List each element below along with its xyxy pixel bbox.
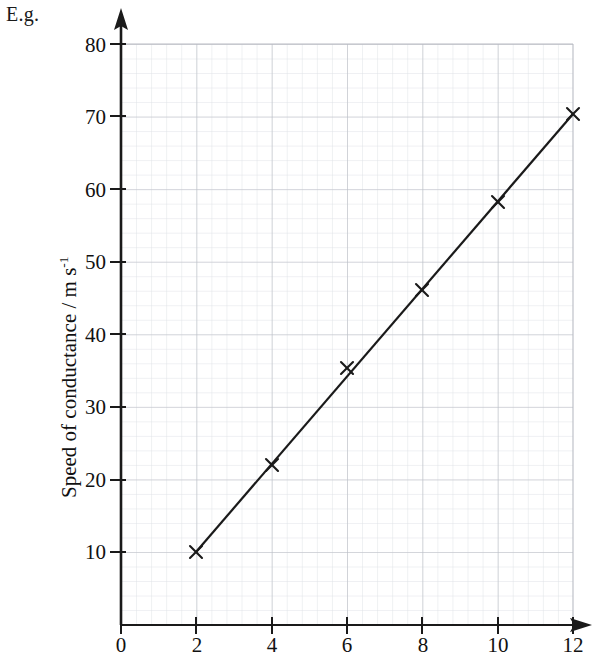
plot-area — [0, 0, 597, 669]
graph-figure: E.g. Speed of conductance / m s-1 80 70 … — [0, 0, 597, 669]
grid-major — [121, 44, 573, 625]
